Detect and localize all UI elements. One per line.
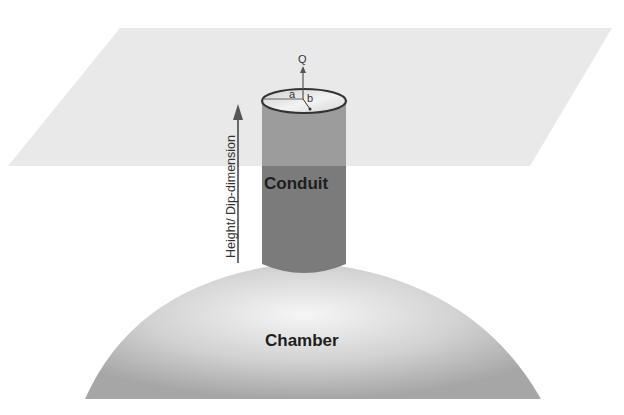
height-axis-label: Height/ Dip-dimension [224,135,238,258]
volcanic-system-diagram [0,0,624,415]
chamber-label: Chamber [265,331,339,351]
semi-axis-b-label: b [307,92,313,104]
conduit-label: Conduit [264,174,328,194]
semi-axis-a-label: a [289,88,295,100]
flux-label: Q [298,53,307,65]
